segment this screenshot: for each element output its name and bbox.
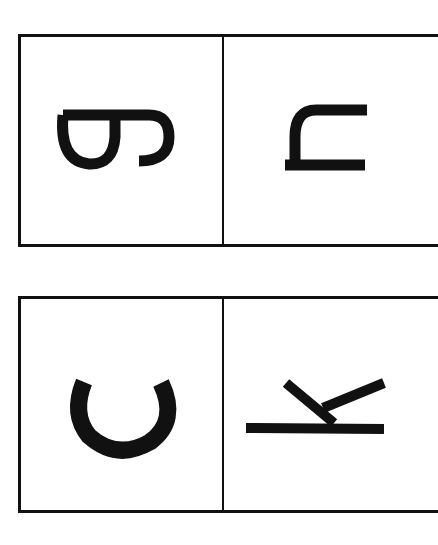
card-2-cell-right: k [224,299,438,510]
card-1-cell-right: n [224,37,438,244]
letter-card-1: g n [18,34,438,247]
rotated-letter-c-icon [21,299,221,510]
letter-card-2: c k [18,296,438,513]
card-1-cell-left: g [21,37,224,244]
card-2-cell-left: c [21,299,224,510]
rotated-letter-n-icon [224,37,424,244]
rotated-letter-g-icon [21,37,222,244]
rotated-letter-k-icon [224,299,424,510]
